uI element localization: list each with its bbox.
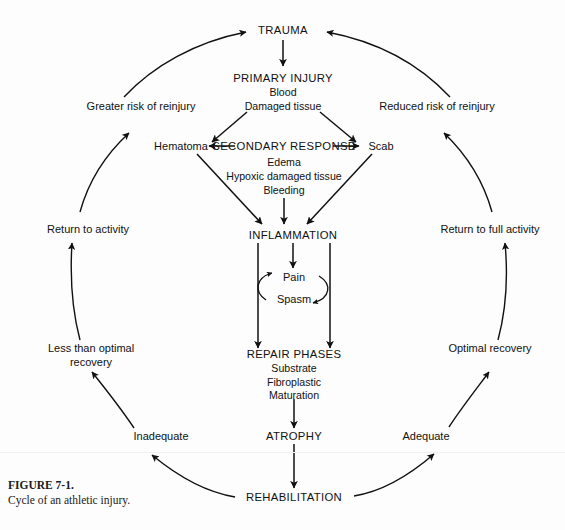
node-return-to-full-activity: Return to full activity [440, 223, 540, 235]
edge-return-to-full-activity-to-reduced-risk-of-reinjury [444, 133, 492, 212]
edge-rehabilitation-to-adequate [354, 454, 434, 496]
node-secondary-response-item-bleeding: Bleeding [263, 184, 304, 196]
edge-adequate-to-optimal-recovery [449, 372, 489, 427]
edge-hematoma-to-inflammation [197, 154, 262, 224]
node-scab: Scab [368, 140, 393, 152]
edge-reduced-risk-of-reinjury-to-trauma [327, 32, 450, 97]
edge-scab-to-inflammation [307, 154, 372, 224]
node-reduced-risk-of-reinjury: Reduced risk of reinjury [379, 100, 495, 112]
node-inadequate: Inadequate [133, 430, 188, 442]
edge-spasm-to-pain [258, 273, 272, 300]
injury-cycle-diagram: TRAUMA PRIMARY INJURY Blood Damaged tiss… [0, 0, 565, 530]
edge-return-to-activity-to-greater-risk-of-reinjury [80, 133, 129, 212]
figure-caption-text: Cycle of an athletic injury. [8, 493, 258, 508]
node-secondary-response-item-edema: Edema [267, 156, 301, 168]
edge-less-than-optimal-recovery-to-return-to-activity [71, 243, 80, 340]
node-primary-injury-item-damaged-tissue: Damaged tissue [245, 100, 322, 112]
node-repair-phases-item-substrate: Substrate [271, 362, 316, 374]
node-rehabilitation: REHABILITATION [246, 491, 342, 503]
figure-number: FIGURE 7-1. [8, 478, 258, 493]
edge-optimal-recovery-to-return-to-full-activity [498, 243, 506, 340]
node-spasm: Spasm [277, 293, 311, 305]
node-secondary-response: SECONDARY RESPONSE [212, 140, 355, 152]
node-trauma: TRAUMA [258, 24, 308, 36]
node-adequate: Adequate [402, 430, 449, 442]
edge-inadequate-to-less-than-optimal-recovery [92, 372, 134, 428]
node-atrophy: ATROPHY [266, 430, 322, 442]
node-optimal-recovery: Optimal recovery [448, 342, 532, 354]
node-less-than-optimal-recovery-line2: recovery [70, 356, 113, 368]
edge-pain-to-spasm [313, 276, 328, 303]
figure-page: TRAUMA PRIMARY INJURY Blood Damaged tiss… [0, 0, 565, 530]
node-primary-injury: PRIMARY INJURY [233, 72, 333, 84]
node-return-to-activity: Return to activity [47, 223, 129, 235]
node-greater-risk-of-reinjury: Greater risk of reinjury [87, 100, 196, 112]
page-rule [0, 452, 565, 453]
edge-primary-injury-to-hematoma [212, 112, 247, 142]
node-repair-phases-item-fibroplastic: Fibroplastic [267, 376, 322, 388]
node-primary-injury-item-blood: Blood [269, 86, 296, 98]
node-hematoma: Hematoma [154, 140, 209, 152]
node-repair-phases: REPAIR PHASES [247, 348, 342, 360]
node-secondary-response-item-hypoxic-damaged-tissue: Hypoxic damaged tissue [226, 170, 342, 182]
figure-caption: FIGURE 7-1. Cycle of an athletic injury. [8, 478, 258, 507]
node-less-than-optimal-recovery-line1: Less than optimal [48, 342, 134, 354]
edge-greater-risk-of-reinjury-to-trauma [124, 32, 246, 97]
edge-primary-injury-to-scab [320, 112, 356, 142]
node-repair-phases-item-maturation: Maturation [269, 389, 319, 401]
node-inflammation: INFLAMMATION [249, 229, 338, 241]
node-pain: Pain [283, 271, 305, 283]
